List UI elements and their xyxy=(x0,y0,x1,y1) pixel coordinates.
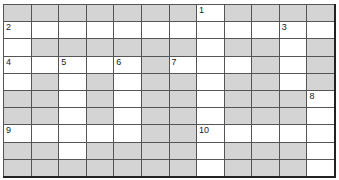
clue-number: 7 xyxy=(172,57,177,67)
blocked-cell xyxy=(86,159,114,176)
blocked-cell xyxy=(306,73,334,90)
clue-number: 4 xyxy=(6,57,11,67)
answer-cell[interactable] xyxy=(169,21,197,38)
answer-cell[interactable] xyxy=(113,90,141,107)
answer-cell[interactable] xyxy=(3,73,31,90)
blocked-cell xyxy=(141,107,169,124)
blocked-cell xyxy=(279,159,307,176)
answer-cell[interactable] xyxy=(58,142,86,159)
blocked-cell xyxy=(169,124,197,141)
answer-cell[interactable]: 9 xyxy=(3,124,31,141)
answer-cell[interactable] xyxy=(196,142,224,159)
blocked-cell xyxy=(141,73,169,90)
blocked-cell xyxy=(113,4,141,21)
answer-cell[interactable] xyxy=(86,21,114,38)
blocked-cell xyxy=(224,73,252,90)
answer-cell[interactable] xyxy=(58,73,86,90)
blocked-cell xyxy=(169,107,197,124)
clue-number: 8 xyxy=(309,91,314,101)
blocked-cell xyxy=(86,73,114,90)
answer-cell[interactable] xyxy=(31,56,59,73)
blocked-cell xyxy=(141,142,169,159)
blocked-cell xyxy=(251,56,279,73)
answer-cell[interactable] xyxy=(113,124,141,141)
answer-cell[interactable] xyxy=(196,38,224,55)
blocked-cell xyxy=(86,107,114,124)
answer-cell[interactable] xyxy=(113,73,141,90)
blocked-cell xyxy=(251,38,279,55)
blocked-cell xyxy=(306,4,334,21)
blocked-cell xyxy=(113,142,141,159)
answer-cell[interactable] xyxy=(306,107,334,124)
answer-cell[interactable] xyxy=(86,124,114,141)
blocked-cell xyxy=(86,142,114,159)
clue-number: 10 xyxy=(199,125,209,135)
answer-cell[interactable] xyxy=(113,107,141,124)
answer-cell[interactable] xyxy=(113,21,141,38)
blocked-cell xyxy=(31,107,59,124)
answer-cell[interactable] xyxy=(31,21,59,38)
answer-cell[interactable] xyxy=(279,38,307,55)
answer-cell[interactable] xyxy=(141,21,169,38)
answer-cell[interactable] xyxy=(58,124,86,141)
answer-cell[interactable] xyxy=(306,142,334,159)
answer-cell[interactable]: 4 xyxy=(3,56,31,73)
blocked-cell xyxy=(306,38,334,55)
blocked-cell xyxy=(141,56,169,73)
answer-cell[interactable] xyxy=(58,21,86,38)
answer-cell[interactable] xyxy=(58,90,86,107)
blocked-cell xyxy=(113,159,141,176)
answer-cell[interactable] xyxy=(196,73,224,90)
blocked-cell xyxy=(224,107,252,124)
blocked-cell xyxy=(86,4,114,21)
blocked-cell xyxy=(141,4,169,21)
answer-cell[interactable] xyxy=(58,107,86,124)
answer-cell[interactable]: 1 xyxy=(196,4,224,21)
blocked-cell xyxy=(86,90,114,107)
answer-cell[interactable]: 7 xyxy=(169,56,197,73)
answer-cell[interactable] xyxy=(251,124,279,141)
answer-cell[interactable] xyxy=(279,124,307,141)
blocked-cell xyxy=(31,142,59,159)
blocked-cell xyxy=(224,142,252,159)
blocked-cell xyxy=(31,159,59,176)
answer-cell[interactable] xyxy=(224,56,252,73)
blocked-cell xyxy=(169,38,197,55)
answer-cell[interactable]: 3 xyxy=(279,21,307,38)
blocked-cell xyxy=(251,142,279,159)
blocked-cell xyxy=(141,90,169,107)
answer-cell[interactable] xyxy=(3,38,31,55)
blocked-cell xyxy=(224,159,252,176)
blocked-cell xyxy=(141,124,169,141)
answer-cell[interactable] xyxy=(196,56,224,73)
answer-cell[interactable]: 2 xyxy=(3,21,31,38)
answer-cell[interactable] xyxy=(196,159,224,176)
answer-cell[interactable] xyxy=(196,107,224,124)
answer-cell[interactable]: 6 xyxy=(113,56,141,73)
blocked-cell xyxy=(141,38,169,55)
answer-cell[interactable]: 5 xyxy=(58,56,86,73)
blocked-cell xyxy=(86,38,114,55)
answer-cell[interactable] xyxy=(224,21,252,38)
answer-cell[interactable] xyxy=(196,90,224,107)
answer-cell[interactable] xyxy=(251,21,279,38)
answer-cell[interactable] xyxy=(279,73,307,90)
blocked-cell xyxy=(141,159,169,176)
answer-cell[interactable] xyxy=(306,159,334,176)
blocked-cell xyxy=(58,159,86,176)
answer-cell[interactable] xyxy=(86,56,114,73)
answer-cell[interactable]: 8 xyxy=(306,90,334,107)
answer-cell[interactable] xyxy=(279,56,307,73)
answer-cell[interactable] xyxy=(224,124,252,141)
blocked-cell xyxy=(3,90,31,107)
blocked-cell xyxy=(58,38,86,55)
answer-cell[interactable] xyxy=(196,21,224,38)
answer-cell[interactable]: 10 xyxy=(196,124,224,141)
answer-cell[interactable] xyxy=(31,124,59,141)
blocked-cell xyxy=(31,90,59,107)
answer-cell[interactable] xyxy=(306,124,334,141)
clue-number: 3 xyxy=(282,22,287,32)
blocked-cell xyxy=(169,73,197,90)
crossword-grid: 12345678910 xyxy=(3,4,336,178)
answer-cell[interactable] xyxy=(306,21,334,38)
